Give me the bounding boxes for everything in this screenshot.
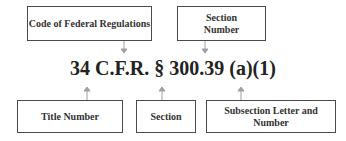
arrow-head-down-icon bbox=[121, 49, 127, 53]
arrow-head-up-icon bbox=[84, 87, 90, 91]
subsection-label: Subsection Letter and Number bbox=[215, 105, 327, 129]
arrow-head-up-icon bbox=[159, 87, 165, 91]
subsection-label-box: Subsection Letter and Number bbox=[206, 100, 336, 133]
arrow-head-down-icon bbox=[202, 49, 208, 53]
section-label: Section bbox=[150, 111, 181, 123]
title-number-label: Title Number bbox=[41, 111, 99, 123]
title-number-label-box: Title Number bbox=[17, 100, 123, 133]
cfr-label-box: Code of Federal Regulations bbox=[27, 6, 152, 41]
cfr-label: Code of Federal Regulations bbox=[29, 18, 150, 30]
section-label-box: Section bbox=[136, 100, 196, 133]
arrow-head-up-icon bbox=[238, 87, 244, 91]
section-number-label-box: Section Number bbox=[177, 6, 266, 41]
section-number-label: Section Number bbox=[196, 12, 247, 36]
citation-text: 34 C.F.R. § 300.39 (a)(1) bbox=[0, 57, 346, 80]
